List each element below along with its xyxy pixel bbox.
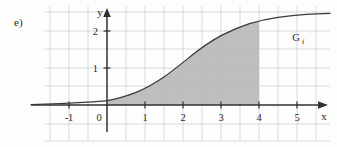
coordinate-graph: -1 0 1 2 3 4 5 1 2 x y G f xyxy=(0,0,337,147)
x-tick-label-3: 3 xyxy=(218,112,223,123)
curve-label: G xyxy=(292,32,300,43)
y-axis-label: y xyxy=(97,6,103,18)
part-label: e) xyxy=(14,16,23,28)
y-tick-label-1: 1 xyxy=(93,63,98,74)
x-axis-label: x xyxy=(321,110,327,122)
x-tick-label--1: -1 xyxy=(65,112,74,123)
y-tick-label-2: 2 xyxy=(93,26,98,37)
x-tick-label-4: 4 xyxy=(256,112,262,123)
figure-container: e) xyxy=(0,0,337,147)
x-tick-label-1: 1 xyxy=(142,112,147,123)
x-tick-label-2: 2 xyxy=(180,112,185,123)
x-tick-label-5: 5 xyxy=(294,112,299,123)
x-tick-label-0: 0 xyxy=(96,112,101,123)
